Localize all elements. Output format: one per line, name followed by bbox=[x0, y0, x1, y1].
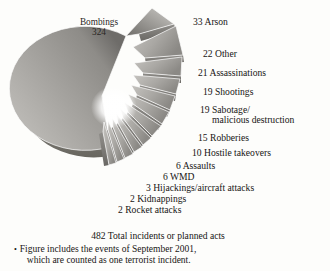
chart-footer: 482 Total incidents or planned acts • Fi… bbox=[0, 230, 330, 267]
footnote-text: Figure includes the events of September … bbox=[20, 244, 197, 267]
slice-label-hostile-takeovers: 10 Hostile takeovers bbox=[192, 148, 271, 158]
bullet-icon: • bbox=[14, 244, 17, 256]
slice-label-sabotage-line2: malicious destruction bbox=[200, 115, 294, 125]
slice-label-assaults: 6 Assaults bbox=[176, 161, 215, 171]
slice-label-sabotage: 19 Sabotage/ malicious destruction bbox=[200, 105, 294, 125]
footnote-line1: Figure includes the events of September … bbox=[20, 244, 197, 254]
footnote-line2: which are counted as one terrorist incid… bbox=[20, 255, 197, 267]
slice-label-robberies: 15 Robberies bbox=[198, 133, 249, 143]
center-glow bbox=[91, 86, 137, 128]
slice-label-hijackings: 3 Hijackings/aircraft attacks bbox=[146, 183, 254, 193]
slice-label-other: 22 Other bbox=[203, 49, 237, 59]
footnote: • Figure includes the events of Septembe… bbox=[0, 244, 330, 267]
slice-label-arson: 33 Arson bbox=[193, 17, 228, 27]
slice-label-assassinations: 21 Assassinations bbox=[198, 68, 266, 78]
slice-label-kidnappings: 2 Kidnappings bbox=[130, 194, 186, 204]
slice-label-wmd: 6 WMD bbox=[163, 172, 195, 182]
pie-chart-figure: Bombings 324 33 Arson 22 Other 21 Assass… bbox=[0, 0, 330, 271]
slice-label-rocket-attacks: 2 Rocket attacks bbox=[118, 205, 181, 215]
slice-label-shootings: 19 Shootings bbox=[203, 87, 253, 97]
total-incidents-line: 482 Total incidents or planned acts bbox=[0, 230, 330, 241]
pie-slice-assassinations bbox=[134, 57, 182, 76]
